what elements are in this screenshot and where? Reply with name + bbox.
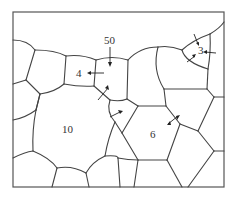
label-grain-4: 4 — [76, 67, 82, 79]
arrow-junction — [98, 88, 108, 100]
arrow-10 — [110, 112, 120, 117]
label-grain-3: 3 — [198, 44, 204, 56]
label-grain-6: 6 — [150, 128, 156, 140]
label-grain-10: 10 — [62, 123, 74, 135]
label-grain-50: 50 — [104, 34, 116, 46]
grain-boundary-diagram: 50 4 3 10 6 — [0, 0, 236, 198]
grain-boundaries — [13, 22, 224, 187]
